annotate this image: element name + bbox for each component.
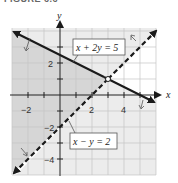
intersection-point: [106, 77, 111, 82]
tick-y-neg2: −2: [44, 123, 54, 133]
label-eq1-text: x + 2y = 5: [75, 42, 118, 53]
label-eq2-text: x − y = 2: [72, 136, 110, 147]
graph: x y −2 2 4 2 −2 −4 x + 2y = 5 x − y = 2: [0, 0, 178, 183]
tick-x-neg2: −2: [21, 105, 31, 115]
tick-x-4: 4: [121, 105, 126, 115]
tick-y-neg4: −4: [44, 155, 54, 165]
y-axis-label: y: [56, 10, 62, 21]
x-axis-label: x: [165, 89, 171, 100]
tick-x-2: 2: [89, 105, 94, 115]
tick-y-2: 2: [48, 59, 53, 69]
